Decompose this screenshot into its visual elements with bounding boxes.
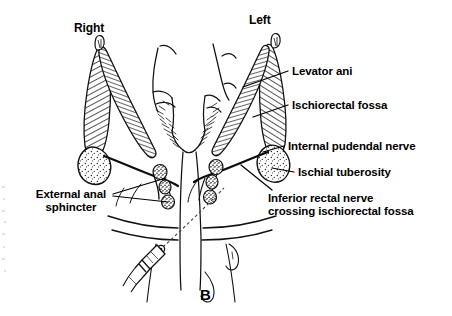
callout-external-anal-sphincter: External anal sphincter xyxy=(29,188,113,213)
callout-levator-ani: Levator ani xyxy=(292,65,352,78)
callout-inferior-rectal-nerve: Inferior rectal nerve crossing ischiorec… xyxy=(268,192,414,217)
callout-ischiorectal-fossa: Ischiorectal fossa xyxy=(292,99,387,112)
callout-ischial-tuberosity: Ischial tuberosity xyxy=(298,166,391,179)
anatomy-drawing xyxy=(0,0,452,316)
orientation-label-left: Left xyxy=(249,14,271,27)
orientation-label-right: Right xyxy=(74,22,104,35)
anatomical-figure: Right Left Levator ani Ischiorectal foss… xyxy=(0,0,452,316)
panel-letter: B xyxy=(200,289,211,302)
scan-artifacts xyxy=(2,186,6,272)
callout-internal-pudendal-nerve: Internal pudendal nerve xyxy=(288,140,415,153)
leader-external-anal-sphincter-b xyxy=(113,196,168,202)
